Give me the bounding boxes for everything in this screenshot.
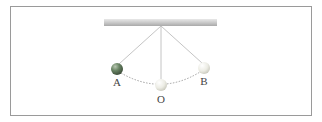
label-o: O xyxy=(157,93,165,105)
string-to-a xyxy=(119,26,161,64)
support-bar xyxy=(104,19,217,26)
label-b: B xyxy=(200,75,207,87)
bob-at-b xyxy=(198,62,210,74)
string-to-b xyxy=(161,26,202,63)
label-a: A xyxy=(113,76,121,88)
pendulum-diagram: A O B xyxy=(0,0,322,122)
bob-at-a xyxy=(111,63,123,75)
bob-at-o xyxy=(155,79,167,91)
